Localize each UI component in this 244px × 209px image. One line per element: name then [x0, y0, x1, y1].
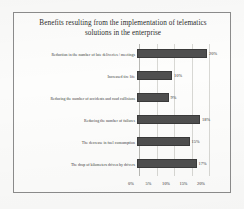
bar [137, 93, 169, 102]
bar-value-label: 9% [171, 95, 177, 101]
x-tick-label: 20% [197, 181, 205, 187]
bar-row: Increased tire life10% [22, 66, 224, 88]
bar-row: The drop of kilometers driven by drivers… [22, 154, 224, 176]
bar [137, 159, 197, 168]
bar-row: The decrease in fuel consumption15% [22, 132, 224, 154]
bar [137, 137, 190, 146]
bar-value-label: 15% [192, 139, 200, 145]
chart-title: Benefits resulting from the implementati… [22, 19, 224, 38]
chart-figure: Benefits resulting from the implementati… [0, 0, 244, 209]
chart-title-line-1: Benefits resulting from the implementati… [22, 19, 224, 29]
bar-track: 10% [137, 66, 224, 88]
bar-row: Reducing the number of accidents and roa… [22, 88, 224, 110]
bar-category-label: Reducing the number of accidents and roa… [22, 97, 137, 102]
x-axis: 0%5%10%15%20% [131, 179, 208, 193]
bar-category-label: The drop of kilometers driven by drivers [22, 163, 137, 168]
bar-value-label: 18% [202, 117, 210, 123]
bar [137, 71, 172, 80]
bar [137, 115, 200, 124]
bar-value-label: 17% [199, 161, 207, 167]
bar [137, 49, 207, 58]
x-tick-label: 10% [162, 181, 170, 187]
chart-title-line-2: solutions in the enterprise [22, 29, 224, 39]
bar-value-label: 20% [209, 51, 217, 57]
bar-category-label: Reduction in the number of late deliveri… [22, 53, 137, 58]
bar-track: 20% [137, 44, 224, 66]
x-tick-label: 5% [146, 181, 152, 187]
bar-track: 9% [137, 88, 224, 110]
chart-frame: Benefits resulting from the implementati… [13, 12, 231, 193]
bar-track: 15% [137, 132, 224, 154]
bar-row: Reduction in the number of late deliveri… [22, 44, 224, 66]
x-tick-label: 15% [179, 181, 187, 187]
bar-row: Reducing the number of failures18% [22, 110, 224, 132]
bar-value-label: 10% [174, 73, 182, 79]
plot-area: Reduction in the number of late deliveri… [22, 44, 224, 176]
bar-track: 17% [137, 154, 224, 176]
x-tick-label: 0% [128, 181, 134, 187]
bar-track: 18% [137, 110, 224, 132]
bar-category-label: Reducing the number of failures [22, 119, 137, 124]
bar-category-label: The decrease in fuel consumption [22, 141, 137, 146]
bar-category-label: Increased tire life [22, 75, 137, 80]
